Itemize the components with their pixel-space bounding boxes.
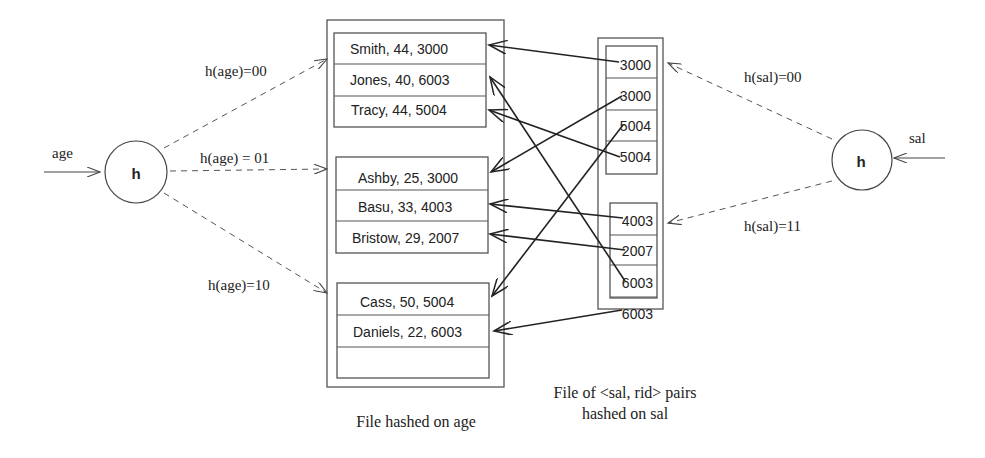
sal-file-caption-line1: File of <sal, rid> pairs: [554, 384, 697, 402]
record-ashby: Ashby, 25, 3000: [358, 170, 458, 186]
sal-hash-label-11: h(sal)=11: [744, 218, 801, 235]
age-bucket-10: Cass, 50, 5004 Daniels, 22, 6003: [337, 283, 489, 378]
hashed-index-diagram: age h h(age)=00 h(age) = 01 h(age)=10 Sm…: [0, 0, 985, 458]
sal-entry-4003: 4003: [622, 213, 653, 229]
sal-file-caption-line2: hashed on sal: [582, 405, 669, 422]
sal-entry-6003-b: 6003: [622, 306, 653, 322]
sal-entry-3000-b: 3000: [620, 88, 651, 104]
age-file: Smith, 44, 3000 Jones, 40, 6003 Tracy, 4…: [327, 20, 504, 431]
record-basu: Basu, 33, 4003: [358, 199, 452, 215]
sal-entry-2007: 2007: [622, 243, 653, 259]
sal-hash-function: sal h h(sal)=00 h(sal)=11: [668, 63, 945, 235]
pointer-6003-to-jones: [490, 77, 625, 281]
age-hash-node-label: h: [131, 165, 140, 182]
pointer-6003-to-daniels: [494, 310, 622, 331]
age-file-caption: File hashed on age: [356, 413, 476, 431]
record-tracy: Tracy, 44, 5004: [351, 102, 447, 118]
sal-entry-3000-a: 3000: [620, 57, 651, 73]
record-daniels: Daniels, 22, 6003: [353, 324, 462, 340]
sal-input-label: sal: [909, 130, 926, 146]
age-bucket-01: Ashby, 25, 3000 Basu, 33, 4003 Bristow, …: [336, 157, 488, 253]
pointer-2007-to-bristow: [490, 234, 625, 250]
record-cass: Cass, 50, 5004: [360, 294, 454, 310]
age-hash-label-10: h(age)=10: [208, 277, 270, 294]
pointer-4003-to-basu: [490, 204, 623, 218]
record-smith: Smith, 44, 3000: [350, 41, 448, 57]
sal-bucket-11: 4003 2007 6003 6003: [610, 203, 657, 322]
age-bucket-00: Smith, 44, 3000 Jones, 40, 6003 Tracy, 4…: [334, 33, 486, 127]
sal-hash-node-label: h: [856, 153, 865, 170]
age-hash-label-00: h(age)=00: [205, 63, 267, 80]
sal-file: 3000 3000 5004 5004 4003 2007 6003 6003 …: [554, 38, 697, 422]
sal-entry-6003-a: 6003: [622, 275, 653, 291]
age-input-label: age: [52, 145, 73, 161]
pointer-5004-to-tracy: [489, 110, 620, 157]
age-hash-function: age h h(age)=00 h(age) = 01 h(age)=10: [44, 59, 327, 294]
age-hash-label-01: h(age) = 01: [200, 150, 269, 167]
rid-pointers: [489, 45, 625, 331]
sal-hash-label-00: h(sal)=00: [744, 69, 802, 86]
sal-dashed-arrow-11: [668, 181, 832, 223]
record-bristow: Bristow, 29, 2007: [352, 230, 460, 246]
sal-entry-5004-b: 5004: [620, 149, 651, 165]
record-jones: Jones, 40, 6003: [350, 72, 450, 88]
pointer-3000-to-smith: [489, 45, 619, 62]
sal-entry-5004-a: 5004: [620, 118, 651, 134]
age-dashed-arrow-01: [170, 169, 327, 171]
